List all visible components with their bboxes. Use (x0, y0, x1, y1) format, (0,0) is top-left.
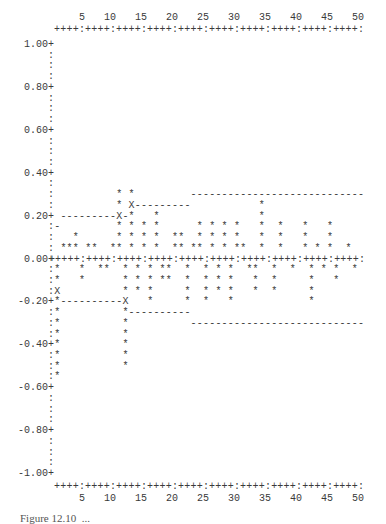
bottom-x-tick-label: 45 (321, 494, 333, 504)
bar-star: * (203, 276, 209, 286)
bar-star: * (54, 330, 60, 340)
y-axis-tick: : (48, 458, 54, 468)
bar-star: * (122, 319, 128, 329)
y-tick-label: 0.80+ (0, 83, 54, 93)
top-x-tick-label: 5 (79, 13, 85, 23)
bar-star: * (271, 265, 277, 275)
bar-star: * (184, 287, 190, 297)
top-x-tick-label: 40 (290, 13, 302, 23)
bar-star: * (122, 287, 128, 297)
bar-star: * (54, 265, 60, 275)
bar-star: * (147, 265, 153, 275)
bar-star: * (327, 244, 333, 254)
bar-star: * (197, 233, 203, 243)
bottom-x-tick-label: 20 (166, 494, 178, 504)
bottom-x-tick-label: 25 (197, 494, 209, 504)
zero-axis-rule: +++++:++++:++++:++++:++++:++++:++++:++++… (49, 255, 365, 265)
y-axis-tick: : (48, 190, 54, 200)
bar-star: * (228, 276, 234, 286)
confidence-band-dash: - (358, 319, 364, 329)
y-axis-tick: : (48, 158, 54, 168)
confidence-band-dash: - (116, 297, 122, 307)
bar-star: * (184, 265, 190, 275)
bottom-x-tick-label: 5 (79, 494, 85, 504)
bar-star: * (302, 222, 308, 232)
bottom-x-tick-label: 10 (104, 494, 116, 504)
bar-star: * (129, 190, 135, 200)
bar-star: * (79, 276, 85, 286)
bar-star: * (215, 287, 221, 297)
bar-star: * (315, 244, 321, 254)
bottom-x-tick-label: 35 (259, 494, 271, 504)
y-axis-tick: : (48, 61, 54, 71)
bar-star: * (91, 244, 97, 254)
y-axis-tick: : (48, 72, 54, 82)
y-axis-tick: : (48, 147, 54, 157)
y-axis-tick: : (48, 201, 54, 211)
bar-star: * (141, 222, 147, 232)
bar-star: * (54, 308, 60, 318)
bar-star: * (253, 276, 259, 286)
bar-star: * (253, 287, 259, 297)
bar-star: * (277, 233, 283, 243)
bar-star: * (141, 233, 147, 243)
y-tick-label: 0.40+ (0, 169, 54, 179)
bar-star: * (203, 287, 209, 297)
y-axis-tick: : (48, 415, 54, 425)
confidence-band-dash: - (122, 212, 128, 222)
bar-star: * (271, 287, 277, 297)
bar-star: * (147, 287, 153, 297)
confidence-band-dash: - (110, 212, 116, 222)
top-x-tick-label: 50 (352, 13, 364, 23)
bar-star: * (327, 233, 333, 243)
bar-star: * (346, 244, 352, 254)
bar-star: * (228, 287, 234, 297)
bar-star: * (259, 222, 265, 232)
y-axis-tick: : (48, 104, 54, 114)
top-x-tick-label: 20 (166, 13, 178, 23)
bar-star: * (54, 340, 60, 350)
top-x-tick-label: 30 (228, 13, 240, 23)
bar-star: * (79, 265, 85, 275)
bar-star: * (116, 190, 122, 200)
bar-star: * (308, 276, 314, 286)
bar-star: * (215, 265, 221, 275)
bar-star: * (228, 265, 234, 275)
bar-star: * (147, 276, 153, 286)
bottom-x-tick-label: 40 (290, 494, 302, 504)
band-cross-marker: X (122, 297, 128, 307)
bar-star: * (209, 244, 215, 254)
y-axis-tick: : (48, 179, 54, 189)
y-axis-tick: : (48, 51, 54, 61)
y-tick-label: -0.40+ (0, 340, 54, 350)
bar-star: * (129, 233, 135, 243)
bar-star: * (240, 244, 246, 254)
bar-star: * (277, 222, 283, 232)
bar-star: * (234, 233, 240, 243)
bar-star: * (321, 265, 327, 275)
y-axis-tick: : (48, 137, 54, 147)
bar-star: * (222, 222, 228, 232)
bar-star: * (54, 362, 60, 372)
bar-star: * (153, 233, 159, 243)
bar-star: * (259, 244, 265, 254)
y-axis-tick: : (48, 448, 54, 458)
y-axis-tick: : (48, 115, 54, 125)
y-axis-tick: : (48, 244, 54, 254)
y-tick-label: -0.80+ (0, 426, 54, 436)
bar-star: * (228, 297, 234, 307)
confidence-band-dash: - (358, 190, 364, 200)
bar-star: * (166, 276, 172, 286)
y-axis-tick: : (48, 405, 54, 415)
confidence-band-dash: - (184, 201, 190, 211)
y-axis-tick: : (48, 394, 54, 404)
top-x-axis-rule: ++++:++++:++++:++++:++++:++++:++++:++++:… (54, 25, 364, 35)
top-x-tick-label: 45 (321, 13, 333, 23)
bar-star: * (259, 201, 265, 211)
bar-star: * (141, 244, 147, 254)
y-tick-label: -0.20+ (0, 297, 54, 307)
bar-star: * (178, 244, 184, 254)
bar-star: * (129, 222, 135, 232)
bar-star: * (122, 265, 128, 275)
bar-star: * (135, 276, 141, 286)
